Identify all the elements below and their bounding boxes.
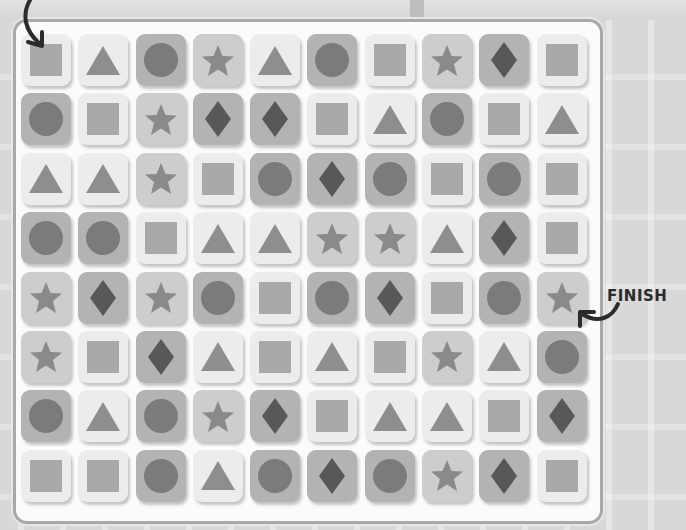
tile-r2-c2-square[interactable] [78, 93, 128, 145]
tile-r5-c3-star[interactable] [136, 272, 186, 324]
tile-r7-c5-diamond[interactable] [250, 390, 300, 442]
square-icon [431, 282, 463, 314]
tile-r5-c2-diamond[interactable] [78, 272, 128, 324]
tile-r2-c6-square[interactable] [307, 93, 357, 145]
triangle-icon [201, 461, 235, 490]
tile-r1-c5-triangle[interactable] [250, 34, 300, 86]
tile-r8-c7-circle[interactable] [365, 450, 415, 502]
tile-r6-c5-square[interactable] [250, 331, 300, 383]
tile-r8-c6-diamond[interactable] [307, 450, 357, 502]
tile-r3-c6-diamond[interactable] [307, 153, 357, 205]
tile-r5-c5-square[interactable] [250, 272, 300, 324]
diamond-icon [89, 280, 117, 316]
tile-r1-c9-diamond[interactable] [479, 34, 529, 86]
square-icon [202, 163, 234, 195]
triangle-icon [545, 105, 579, 134]
tile-r1-c4-star[interactable] [193, 34, 243, 86]
square-icon [145, 222, 177, 254]
tile-r4-c4-triangle[interactable] [193, 212, 243, 264]
tile-r7-c4-star[interactable] [193, 390, 243, 442]
tile-r6-c10-circle[interactable] [537, 331, 587, 383]
triangle-icon [258, 224, 292, 253]
tile-r3-c5-circle[interactable] [250, 153, 300, 205]
tile-r3-c4-square[interactable] [193, 153, 243, 205]
tile-r7-c6-square[interactable] [307, 390, 357, 442]
tile-r6-c6-triangle[interactable] [307, 331, 357, 383]
tile-r6-c7-square[interactable] [365, 331, 415, 383]
tile-r3-c3-star[interactable] [136, 153, 186, 205]
tile-r6-c8-star[interactable] [422, 331, 472, 383]
tile-r6-c3-diamond[interactable] [136, 331, 186, 383]
tile-r4-c2-circle[interactable] [78, 212, 128, 264]
tile-r8-c1-square[interactable] [21, 450, 71, 502]
tile-r4-c5-triangle[interactable] [250, 212, 300, 264]
circle-icon [144, 43, 178, 77]
tile-r3-c8-square[interactable] [422, 153, 472, 205]
tile-r4-c10-square[interactable] [537, 212, 587, 264]
tile-r6-c1-star[interactable] [21, 331, 71, 383]
tile-r5-c6-circle[interactable] [307, 272, 357, 324]
tile-r3-c1-triangle[interactable] [21, 153, 71, 205]
tile-r1-c2-triangle[interactable] [78, 34, 128, 86]
triangle-icon [201, 224, 235, 253]
tile-r3-c10-square[interactable] [537, 153, 587, 205]
tile-r7-c9-square[interactable] [479, 390, 529, 442]
star-icon [29, 340, 63, 373]
tile-r5-c9-circle[interactable] [479, 272, 529, 324]
tile-r8-c3-circle[interactable] [136, 450, 186, 502]
tile-r2-c10-triangle[interactable] [537, 93, 587, 145]
tile-r2-c4-diamond[interactable] [193, 93, 243, 145]
tile-r2-c5-diamond[interactable] [250, 93, 300, 145]
tile-r2-c8-circle[interactable] [422, 93, 472, 145]
tile-r6-c2-square[interactable] [78, 331, 128, 383]
tile-r4-c3-square[interactable] [136, 212, 186, 264]
tile-r5-c1-star[interactable] [21, 272, 71, 324]
tile-r1-c7-square[interactable] [365, 34, 415, 86]
tile-r6-c4-triangle[interactable] [193, 331, 243, 383]
triangle-icon [86, 46, 120, 75]
tile-r4-c9-diamond[interactable] [479, 212, 529, 264]
tile-r1-c6-circle[interactable] [307, 34, 357, 86]
tile-r4-c6-star[interactable] [307, 212, 357, 264]
tile-r3-c2-triangle[interactable] [78, 153, 128, 205]
tile-r7-c10-diamond[interactable] [537, 390, 587, 442]
tile-r8-c2-square[interactable] [78, 450, 128, 502]
tile-r7-c8-triangle[interactable] [422, 390, 472, 442]
tile-r1-c10-square[interactable] [537, 34, 587, 86]
tile-r3-c9-circle[interactable] [479, 153, 529, 205]
tile-r5-c7-diamond[interactable] [365, 272, 415, 324]
tile-r2-c3-star[interactable] [136, 93, 186, 145]
tile-r8-c8-star[interactable] [422, 450, 472, 502]
tile-r5-c4-circle[interactable] [193, 272, 243, 324]
tile-r8-c10-square[interactable] [537, 450, 587, 502]
tile-r7-c7-triangle[interactable] [365, 390, 415, 442]
diamond-icon [147, 339, 175, 375]
tile-r1-c8-star[interactable] [422, 34, 472, 86]
tile-r8-c9-diamond[interactable] [479, 450, 529, 502]
tile-r2-c7-triangle[interactable] [365, 93, 415, 145]
star-icon [430, 340, 464, 373]
tile-r7-c2-triangle[interactable] [78, 390, 128, 442]
tile-r2-c9-square[interactable] [479, 93, 529, 145]
circle-icon [315, 281, 349, 315]
tile-r7-c1-circle[interactable] [21, 390, 71, 442]
puzzle-grid [21, 34, 587, 502]
tile-r2-c1-circle[interactable] [21, 93, 71, 145]
tile-r5-c8-square[interactable] [422, 272, 472, 324]
square-icon [316, 400, 348, 432]
tile-r8-c5-circle[interactable] [250, 450, 300, 502]
tile-r1-c3-circle[interactable] [136, 34, 186, 86]
tile-r7-c3-circle[interactable] [136, 390, 186, 442]
tile-r4-c8-triangle[interactable] [422, 212, 472, 264]
tile-r8-c4-triangle[interactable] [193, 450, 243, 502]
triangle-icon [201, 342, 235, 371]
circle-icon [258, 162, 292, 196]
square-icon [316, 103, 348, 135]
tile-r4-c7-star[interactable] [365, 212, 415, 264]
diamond-icon [318, 161, 346, 197]
tile-r6-c9-triangle[interactable] [479, 331, 529, 383]
triangle-icon [373, 402, 407, 431]
tile-r3-c7-circle[interactable] [365, 153, 415, 205]
tile-r4-c1-circle[interactable] [21, 212, 71, 264]
diamond-icon [490, 42, 518, 78]
